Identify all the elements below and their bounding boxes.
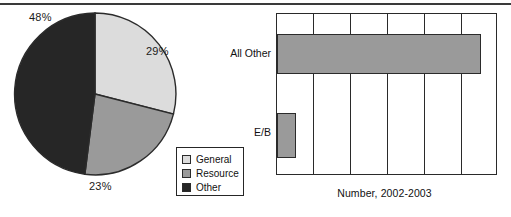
legend-swatch-general <box>182 155 191 164</box>
figure-container: 48% 29% 23% General Resource Other <box>0 0 511 217</box>
bar-eb <box>277 113 296 158</box>
bar-chart-panel: All Other E/B Number, 2002-2003 <box>258 0 511 217</box>
bar-all-other <box>277 34 481 74</box>
legend-swatch-other <box>182 183 191 192</box>
legend-swatch-resource <box>182 169 191 178</box>
legend-label-other: Other <box>196 182 221 193</box>
bar-chart-plot-area: All Other E/B <box>276 13 497 175</box>
pie-slice-other <box>15 13 95 174</box>
bar-category-label-eb: E/B <box>207 126 271 138</box>
pie-label-resource-percent: 23% <box>89 180 112 192</box>
pie-label-general-percent: 29% <box>146 45 169 57</box>
legend-label-general: General <box>196 154 232 165</box>
pie-chart-graphic <box>12 11 178 177</box>
pie-chart-panel: 48% 29% 23% General Resource Other <box>0 0 258 217</box>
legend-item-resource: Resource <box>182 166 243 180</box>
pie-label-other-percent: 48% <box>29 11 52 23</box>
legend-item-general: General <box>182 152 243 166</box>
bar-chart-axis-caption: Number, 2002-2003 <box>258 187 511 199</box>
bar-category-label-all-other: All Other <box>207 47 271 59</box>
pie-legend: General Resource Other <box>176 147 244 196</box>
legend-label-resource: Resource <box>196 168 239 179</box>
legend-item-other: Other <box>182 180 243 194</box>
